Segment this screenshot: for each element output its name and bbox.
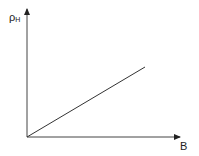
- chart-plot: [0, 0, 199, 156]
- y-axis-label: ρH: [9, 12, 20, 23]
- data-line: [27, 67, 145, 137]
- x-axis-label: B: [180, 141, 187, 152]
